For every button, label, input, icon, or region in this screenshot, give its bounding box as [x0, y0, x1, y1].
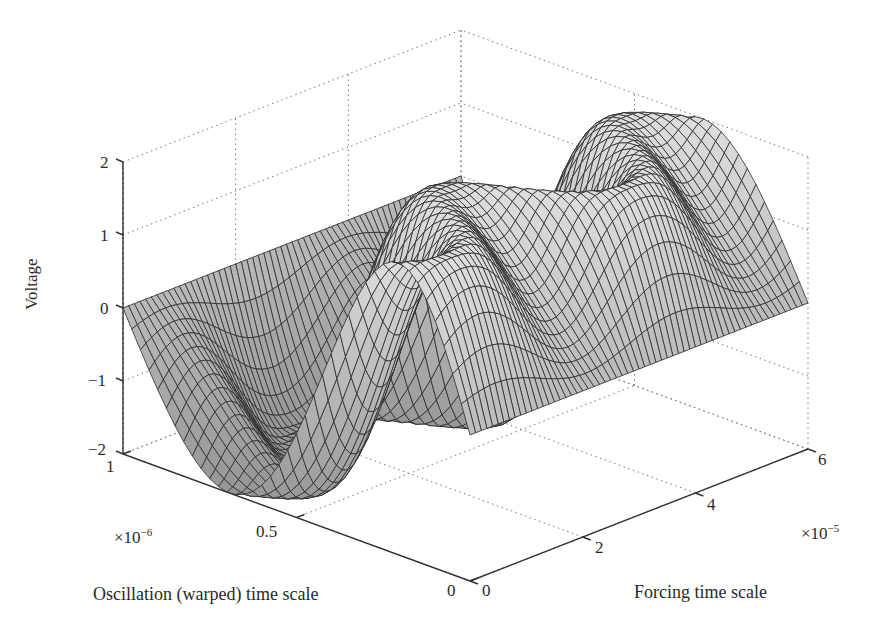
- x-multiplier: ×10−5: [801, 523, 839, 542]
- z-tick-2: 2: [100, 154, 109, 171]
- y-tick-1: 1: [106, 458, 115, 475]
- x-tick-4: 4: [707, 496, 716, 513]
- x-tick-6: 6: [818, 451, 827, 468]
- voltage-surface: [123, 112, 808, 499]
- z-tick-0: 0: [100, 300, 109, 317]
- y-tick-0: 0: [447, 582, 456, 599]
- z-tick-1: 1: [100, 227, 109, 244]
- y-tick-0.5: 0.5: [256, 523, 277, 540]
- z-tick-minus1: −1: [88, 372, 106, 389]
- x-axis-label: Forcing time scale: [634, 583, 767, 601]
- x-tick-2: 2: [595, 539, 604, 556]
- y-multiplier: ×10−6: [114, 527, 152, 546]
- y-axis-label: Oscillation (warped) time scale: [93, 585, 318, 603]
- z-axis-label: Voltage: [22, 258, 42, 310]
- x-tick-0: 0: [482, 582, 491, 599]
- z-tick-minus2: −2: [88, 441, 106, 458]
